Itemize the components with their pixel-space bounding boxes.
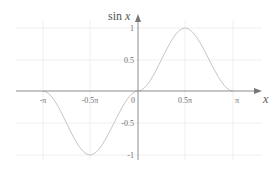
- sine-chart: sin x x -π -0.5π 0 0.5π π 1 0.5 -0.5 -1: [0, 0, 277, 176]
- x-axis-arrow-icon: [254, 88, 262, 94]
- chart-canvas: sin x x -π -0.5π 0 0.5π π 1 0.5 -0.5 -1: [0, 0, 277, 176]
- y-tick-label: 0.5: [124, 56, 134, 65]
- origin-label: 0: [131, 96, 135, 105]
- x-tick-label: π: [235, 96, 239, 105]
- x-tick-label: -0.5π: [82, 96, 99, 105]
- x-tick-label: 0.5π: [178, 96, 192, 105]
- grid: [16, 20, 262, 160]
- y-axis-title: sin x: [108, 9, 131, 23]
- y-tick-label: -0.5: [121, 119, 134, 128]
- x-tick-label: -π: [40, 96, 47, 105]
- y-axis-arrow-icon: [135, 14, 141, 22]
- y-tick-label: 1: [130, 24, 134, 33]
- x-axis-title: x: [262, 92, 269, 106]
- axes: [16, 20, 256, 160]
- y-tick-label: -1: [127, 151, 134, 160]
